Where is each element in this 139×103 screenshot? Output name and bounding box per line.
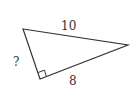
triangle-shape [23,29,128,79]
hypotenuse-label: 10 [61,19,76,33]
triangle-diagram: 10 ? 8 [0,0,139,103]
unknown-leg-label: ? [13,55,19,69]
known-leg-label: 8 [69,74,77,88]
